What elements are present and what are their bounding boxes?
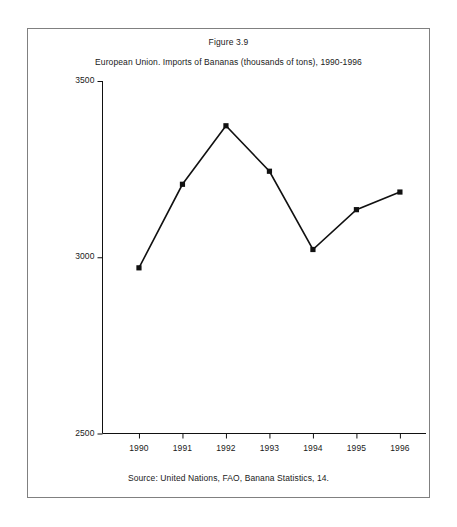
axes <box>103 81 427 434</box>
data-series-line <box>139 126 400 268</box>
y-axis-tick-label: 2500 <box>53 428 95 438</box>
x-axis-tick-label: 1991 <box>160 443 204 453</box>
x-axis-tick-label: 1990 <box>117 443 161 453</box>
x-axis-ticks <box>139 434 400 439</box>
x-axis-tick-label: 1996 <box>378 443 422 453</box>
figure-frame: Figure 3.9 European Union. Imports of Ba… <box>27 28 430 498</box>
y-axis-tick-label: 3500 <box>53 75 95 85</box>
data-point-marker <box>267 169 272 174</box>
data-point-marker <box>354 207 359 212</box>
data-point-marker <box>180 182 185 187</box>
y-axis-ticks <box>98 82 103 435</box>
source-note: Source: United Nations, FAO, Banana Stat… <box>28 473 429 483</box>
x-axis-tick-label: 1993 <box>247 443 291 453</box>
y-axis-tick-label: 3000 <box>53 251 95 261</box>
x-axis-tick-label: 1995 <box>334 443 378 453</box>
data-point-marker <box>136 265 141 270</box>
data-point-marker <box>397 189 402 194</box>
plot-area: 250030003500 199019911992199319941995199… <box>28 29 431 499</box>
x-axis-tick-label: 1992 <box>204 443 248 453</box>
data-point-marker <box>310 247 315 252</box>
data-point-marker <box>223 123 228 128</box>
x-axis-tick-label: 1994 <box>291 443 335 453</box>
